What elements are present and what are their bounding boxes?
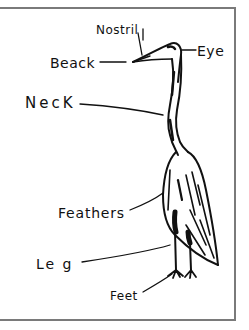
label-beak: Beack <box>50 56 95 70</box>
feet-leader <box>143 274 172 292</box>
heron-neck <box>168 55 188 155</box>
feathers-leader <box>130 193 163 210</box>
label-neck: NecK <box>25 96 76 111</box>
label-leg: Le g <box>36 257 74 271</box>
label-feathers: Feathers <box>58 206 125 220</box>
neck-leader <box>80 104 163 115</box>
label-eye: Eye <box>197 44 224 58</box>
nostril-leader <box>138 33 142 55</box>
heron-legs <box>168 212 196 278</box>
label-nostril: Nostril <box>96 24 138 36</box>
leg-leader <box>82 245 170 262</box>
label-feet: Feet <box>110 290 138 302</box>
